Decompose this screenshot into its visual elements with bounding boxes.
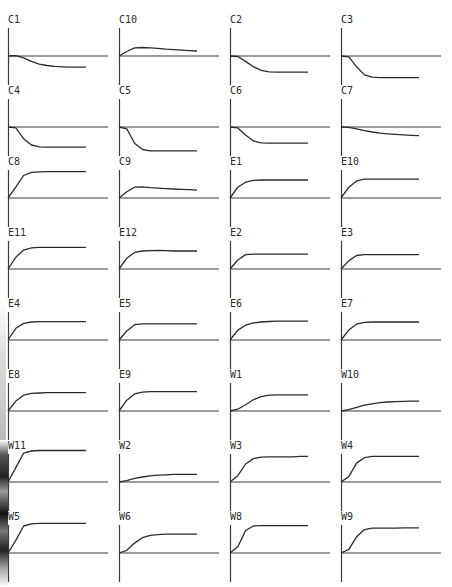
chart-panel-e1: E1 xyxy=(230,156,341,227)
series-line xyxy=(119,392,197,411)
series-line xyxy=(341,179,419,198)
scan-edge-shadow xyxy=(0,440,8,587)
series-line xyxy=(341,322,419,340)
series-line xyxy=(230,254,308,269)
line-plot xyxy=(341,85,452,156)
chart-panel-e11: E11 xyxy=(8,227,119,298)
chart-panel-c4: C4 xyxy=(8,85,119,156)
line-plot xyxy=(230,440,341,511)
line-plot xyxy=(230,14,341,85)
chart-panel-c9: C9 xyxy=(119,156,230,227)
line-plot xyxy=(230,511,341,582)
chart-panel-w6: W6 xyxy=(119,511,230,582)
line-plot xyxy=(8,156,119,227)
series-line xyxy=(341,255,419,269)
chart-panel-c5: C5 xyxy=(119,85,230,156)
series-line xyxy=(230,180,308,198)
series-line xyxy=(119,324,197,340)
series-line xyxy=(119,187,197,198)
small-multiples-grid: C1C10C2C3C4C5C6C7C8C9E1E10E11E12E2E3E4E5… xyxy=(0,0,452,587)
series-line xyxy=(8,247,86,269)
series-line xyxy=(8,127,86,147)
series-line xyxy=(119,127,197,151)
line-plot xyxy=(341,156,452,227)
scan-edge-shading xyxy=(0,300,6,440)
chart-panel-w5: W5 xyxy=(8,511,119,582)
chart-panel-e8: E8 xyxy=(8,369,119,440)
line-plot xyxy=(119,440,230,511)
series-line xyxy=(341,456,419,482)
chart-panel-w3: W3 xyxy=(230,440,341,511)
line-plot xyxy=(8,85,119,156)
chart-panel-c8: C8 xyxy=(8,156,119,227)
chart-panel-w10: W10 xyxy=(341,369,452,440)
series-line xyxy=(8,523,86,553)
chart-panel-e4: E4 xyxy=(8,298,119,369)
series-line xyxy=(8,322,86,340)
line-plot xyxy=(8,511,119,582)
chart-panel-c6: C6 xyxy=(230,85,341,156)
series-line xyxy=(119,251,197,270)
chart-panel-e3: E3 xyxy=(341,227,452,298)
series-line xyxy=(341,127,419,136)
chart-panel-e5: E5 xyxy=(119,298,230,369)
line-plot xyxy=(8,227,119,298)
series-line xyxy=(230,127,308,143)
line-plot xyxy=(341,227,452,298)
line-plot xyxy=(341,511,452,582)
series-line xyxy=(341,56,419,78)
line-plot xyxy=(119,85,230,156)
series-line xyxy=(341,528,419,553)
chart-panel-e6: E6 xyxy=(230,298,341,369)
chart-panel-w1: W1 xyxy=(230,369,341,440)
chart-panel-c1: C1 xyxy=(8,14,119,85)
series-line xyxy=(119,534,197,553)
line-plot xyxy=(341,298,452,369)
chart-panel-w4: W4 xyxy=(341,440,452,511)
line-plot xyxy=(119,298,230,369)
line-plot xyxy=(119,14,230,85)
chart-panel-e2: E2 xyxy=(230,227,341,298)
series-line xyxy=(230,395,308,411)
chart-panel-w9: W9 xyxy=(341,511,452,582)
chart-panel-c3: C3 xyxy=(341,14,452,85)
series-line xyxy=(230,56,308,72)
line-plot xyxy=(119,369,230,440)
series-line xyxy=(230,321,308,340)
line-plot xyxy=(341,369,452,440)
chart-panel-e9: E9 xyxy=(119,369,230,440)
chart-panel-w8: W8 xyxy=(230,511,341,582)
series-line xyxy=(230,526,308,553)
line-plot xyxy=(119,227,230,298)
series-line xyxy=(8,393,86,411)
chart-panel-c7: C7 xyxy=(341,85,452,156)
line-plot xyxy=(230,227,341,298)
chart-panel-e10: E10 xyxy=(341,156,452,227)
line-plot xyxy=(8,440,119,511)
series-line xyxy=(8,172,86,198)
series-line xyxy=(8,56,86,68)
series-line xyxy=(119,48,197,57)
chart-panel-w11: W11 xyxy=(8,440,119,511)
line-plot xyxy=(341,440,452,511)
chart-panel-c10: C10 xyxy=(119,14,230,85)
series-line xyxy=(119,474,197,482)
series-line xyxy=(341,401,419,411)
line-plot xyxy=(119,511,230,582)
chart-panel-e7: E7 xyxy=(341,298,452,369)
line-plot xyxy=(8,298,119,369)
line-plot xyxy=(230,156,341,227)
line-plot xyxy=(230,298,341,369)
series-line xyxy=(8,451,86,483)
line-plot xyxy=(230,85,341,156)
chart-panel-w2: W2 xyxy=(119,440,230,511)
line-plot xyxy=(341,14,452,85)
chart-panel-e12: E12 xyxy=(119,227,230,298)
line-plot xyxy=(230,369,341,440)
line-plot xyxy=(8,14,119,85)
line-plot xyxy=(119,156,230,227)
series-line xyxy=(230,456,308,482)
line-plot xyxy=(8,369,119,440)
chart-panel-c2: C2 xyxy=(230,14,341,85)
